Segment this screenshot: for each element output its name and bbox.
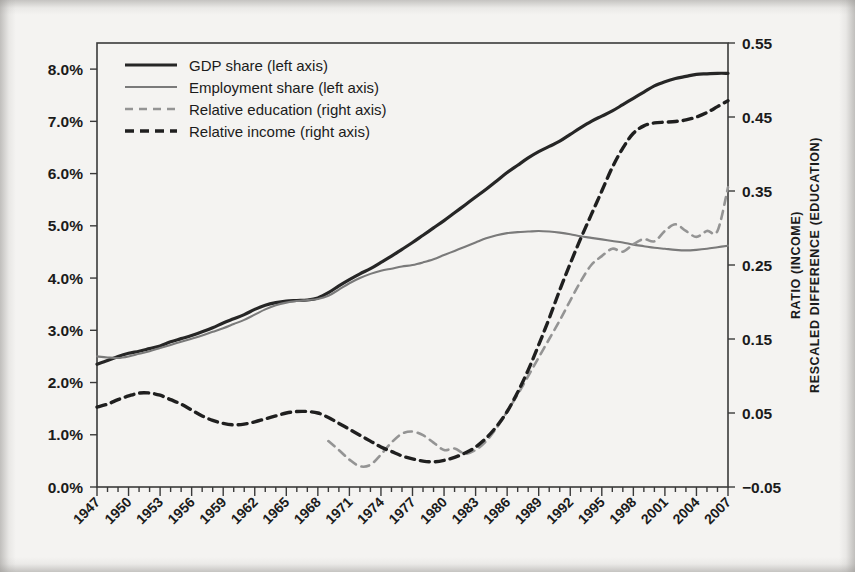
x-axis-tick-label: 1998 <box>606 494 639 527</box>
x-axis-tick-label: 1956 <box>164 494 197 527</box>
right-axis-title-income: RATIO (INCOME) <box>789 211 803 319</box>
x-axis-tick-label: 2001 <box>638 494 671 527</box>
right-axis-tick-label: 0.05 <box>742 405 773 422</box>
x-axis-tick-label: 1986 <box>480 494 513 527</box>
x-axis-tick-label: 1953 <box>133 494 166 527</box>
legend-label-2: Relative education (right axis) <box>189 101 387 118</box>
left-axis-tick-label: 1.0% <box>48 426 84 443</box>
x-axis-tick-label: 1980 <box>417 494 450 527</box>
right-axis-tick-label: 0.25 <box>742 257 773 274</box>
x-axis-tick-label: 1950 <box>101 494 134 527</box>
right-axis-tick-label: 0.15 <box>742 331 773 348</box>
legend-label-0: GDP share (left axis) <box>189 57 328 74</box>
x-axis: 1947195019531956195919621965196819711974… <box>70 487 734 527</box>
x-axis-tick-label: 1965 <box>259 494 292 527</box>
x-axis-tick-label: 1959 <box>196 494 229 527</box>
x-axis-tick-label: 1992 <box>543 494 576 527</box>
right-axis-tick-label: 0.55 <box>742 35 773 52</box>
x-axis-tick-label: 1947 <box>70 494 103 527</box>
x-axis-tick-label: 1974 <box>354 494 387 527</box>
series-line-2 <box>328 187 728 466</box>
legend-label-1: Employment share (left axis) <box>189 79 379 96</box>
right-axis-tick-label: 0.45 <box>742 109 773 126</box>
x-axis-tick-label: 1962 <box>228 494 261 527</box>
x-axis-tick-label: 2004 <box>669 494 702 527</box>
legend-label-3: Relative income (right axis) <box>189 123 370 140</box>
x-axis-tick-label: 1971 <box>322 494 355 527</box>
left-axis-tick-label: 0.0% <box>48 479 84 496</box>
x-axis-tick-label: 1989 <box>511 494 544 527</box>
left-axis-tick-label: 5.0% <box>48 217 84 234</box>
left-axis-tick-label: 6.0% <box>48 165 84 182</box>
x-axis-tick-label: 1977 <box>385 494 418 527</box>
left-axis-tick-label: 8.0% <box>48 61 84 78</box>
x-axis-tick-label: 1983 <box>448 494 481 527</box>
left-axis: 0.0%1.0%2.0%3.0%4.0%5.0%6.0%7.0%8.0% <box>48 61 97 496</box>
left-axis-tick-label: 4.0% <box>48 270 84 287</box>
x-axis-tick-label: 1995 <box>575 494 608 527</box>
left-axis-tick-label: 2.0% <box>48 374 84 391</box>
right-axis-tick-label: −0.05 <box>742 479 782 496</box>
left-axis-tick-label: 7.0% <box>48 113 84 130</box>
series-line-3 <box>97 101 728 462</box>
figure-page: 0.0%1.0%2.0%3.0%4.0%5.0%6.0%7.0%8.0%−0.0… <box>0 0 855 572</box>
x-axis-tick-label: 1968 <box>291 494 324 527</box>
series-line-1 <box>97 231 728 358</box>
line-chart: 0.0%1.0%2.0%3.0%4.0%5.0%6.0%7.0%8.0%−0.0… <box>0 0 855 572</box>
right-axis-tick-label: 0.35 <box>742 183 773 200</box>
legend: GDP share (left axis)Employment share (l… <box>125 57 387 140</box>
right-axis-title-education: RESCALED DIFFERENCE (EDUCATION) <box>808 137 822 393</box>
right-axis: −0.050.050.150.250.350.450.55 <box>728 35 782 496</box>
left-axis-tick-label: 3.0% <box>48 322 84 339</box>
x-axis-tick-label: 2007 <box>701 494 734 527</box>
